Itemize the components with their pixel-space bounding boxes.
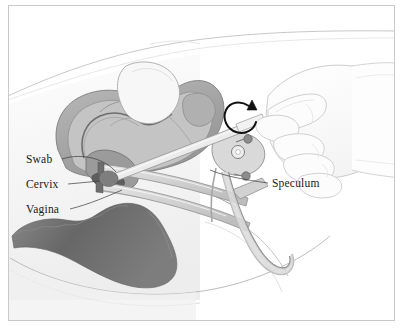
swab-tip (99, 171, 118, 187)
label-vagina: Vagina (26, 203, 59, 216)
pubic-symphysis (183, 93, 216, 126)
cervical-swab-illustration: Swab Cervix Vagina Speculum (0, 0, 403, 333)
illustration-root: Swab Cervix Vagina Speculum (0, 0, 403, 333)
label-cervix: Cervix (26, 178, 59, 190)
label-swab: Swab (26, 153, 52, 165)
label-speculum: Speculum (272, 177, 320, 190)
bladder (118, 62, 180, 124)
speculum-pivot-hole (236, 150, 241, 155)
speculum-thumbscrew-upper (244, 135, 252, 143)
